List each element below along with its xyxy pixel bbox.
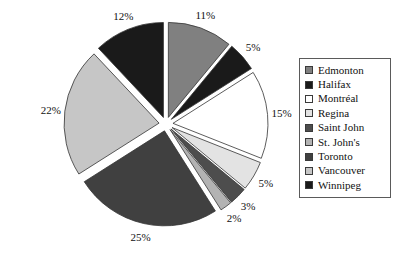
legend-item[interactable]: Saint John [305,121,386,135]
pie-slices-group [64,22,268,225]
legend-item-label: Edmonton [318,65,364,76]
legend-color-swatch [305,153,313,161]
pie-chart-figure: 11%5%15%5%3%2%25%22%12% EdmontonHalifaxM… [0,0,395,259]
chart-legend: EdmontonHalifaxMontréalReginaSaint JohnS… [299,58,391,198]
legend-color-swatch [305,66,313,74]
pie-slice-value-label: 5% [246,41,261,53]
legend-color-swatch [305,81,313,89]
legend-item[interactable]: Edmonton [305,63,386,77]
legend-item-label: Halifax [318,79,351,90]
legend-item-label: Regina [318,108,349,119]
legend-item[interactable]: Regina [305,106,386,120]
pie-slice-value-label: 3% [241,200,256,212]
legend-color-swatch [305,181,313,189]
legend-item-label: Montréal [318,93,358,104]
legend-item[interactable]: Toronto [305,149,386,163]
legend-color-swatch [305,167,313,175]
legend-item-label: Winnipeg [318,180,361,191]
legend-color-swatch [305,95,313,103]
legend-item-label: Toronto [318,151,353,162]
pie-slice-value-label: 5% [258,177,273,189]
legend-item-label: St. John's [318,137,360,148]
legend-item[interactable]: Montréal [305,92,386,106]
legend-color-swatch [305,138,313,146]
pie-slice-value-label: 25% [131,231,151,243]
legend-color-swatch [305,109,313,117]
legend-item[interactable]: Vancouver [305,164,386,178]
pie-slice-value-label: 12% [113,10,133,22]
legend-item[interactable]: St. John's [305,135,386,149]
legend-item-label: Saint John [318,122,364,133]
pie-slice-value-label: 11% [195,9,215,21]
pie-slice-value-label: 22% [41,104,61,116]
legend-color-swatch [305,124,313,132]
legend-item-label: Vancouver [318,165,365,176]
legend-item[interactable]: Halifax [305,77,386,91]
legend-item[interactable]: Winnipeg [305,178,386,192]
pie-slice-value-label: 2% [227,212,242,224]
pie-slice-value-label: 15% [271,107,291,119]
